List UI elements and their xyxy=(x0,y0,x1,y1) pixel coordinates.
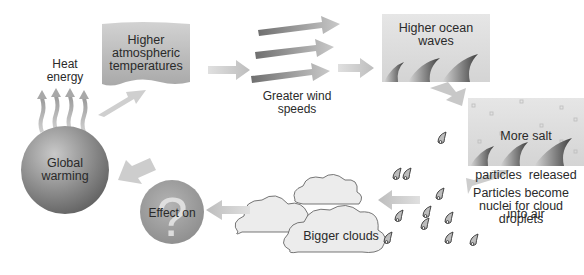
salt-particles-line-1: More salt xyxy=(468,130,584,143)
nuclei-line-3: droplets xyxy=(462,213,580,226)
ocean-waves-line-2: waves xyxy=(382,35,490,48)
effect-on-label: Effect on xyxy=(136,207,208,220)
global-warming-label: Global warming xyxy=(20,157,110,183)
wind-arrows xyxy=(251,16,340,83)
ocean-waves-label: Higher ocean waves xyxy=(382,22,490,48)
wind-speeds-label: Greater wind speeds xyxy=(256,90,338,116)
salt-particles-line-2: particles released xyxy=(468,169,584,182)
bigger-clouds-label: Bigger clouds xyxy=(296,230,386,243)
higher-temperatures-line-3: temperatures xyxy=(102,60,190,73)
global-warming-line-2: warming xyxy=(20,170,110,183)
heat-energy-label: Heat energy xyxy=(40,58,90,84)
heat-energy-line-2: energy xyxy=(40,71,90,84)
higher-temperatures-label: Higher atmospheric temperatures xyxy=(102,34,190,73)
nuclei-label: Particles become nuclei for cloud drople… xyxy=(462,187,580,226)
wind-speeds-line-2: speeds xyxy=(256,103,338,116)
